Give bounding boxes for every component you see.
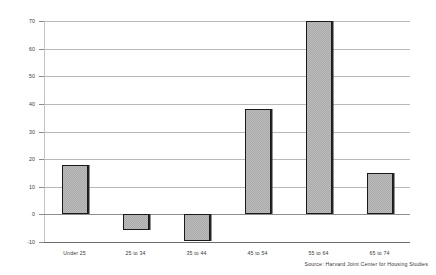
x-axis-tick-label: 45 to 54	[227, 250, 288, 257]
y-axis-tick-label: 20	[13, 156, 35, 162]
bar	[367, 173, 393, 214]
y-tick-mark	[39, 132, 44, 133]
y-tick-mark	[39, 49, 44, 50]
y-tick-mark	[39, 242, 44, 243]
x-axis-tick-label: 65 to 74	[349, 250, 410, 257]
y-tick-mark	[39, 21, 44, 22]
gridline	[44, 132, 410, 133]
y-axis-tick-label: -10	[13, 239, 35, 245]
bar	[62, 165, 88, 215]
gridline	[44, 214, 410, 215]
gridline	[44, 159, 410, 160]
bar	[245, 109, 271, 214]
y-axis-tick-label: 0	[13, 211, 35, 217]
gridline	[44, 21, 410, 22]
x-axis-tick-label: 35 to 44	[166, 250, 227, 257]
bar	[123, 214, 149, 229]
y-tick-mark	[39, 76, 44, 77]
source-note: Source: Harvard Joint Center for Housing…	[305, 260, 429, 268]
y-axis-tick-label: 30	[13, 129, 35, 135]
y-tick-mark	[39, 214, 44, 215]
x-axis-tick-label: 25 to 34	[105, 250, 166, 257]
bar-chart: 706050403020100-10 Under 2525 to 3435 to…	[0, 0, 436, 275]
gridline	[44, 242, 410, 243]
bar	[184, 214, 210, 240]
gridline	[44, 49, 410, 50]
bar	[306, 21, 332, 214]
y-tick-mark	[39, 159, 44, 160]
gridline	[44, 76, 410, 77]
y-axis-tick-label: 50	[13, 73, 35, 79]
x-axis-tick-label: 55 to 64	[288, 250, 349, 257]
gridline	[44, 187, 410, 188]
y-tick-mark	[39, 187, 44, 188]
plot-area	[44, 21, 410, 242]
y-tick-mark	[39, 104, 44, 105]
gridline	[44, 104, 410, 105]
x-axis-tick-label: Under 25	[44, 250, 105, 257]
y-axis-tick-label: 10	[13, 184, 35, 190]
y-axis-tick-label: 40	[13, 101, 35, 107]
y-axis-tick-label: 70	[13, 18, 35, 24]
y-axis-tick-label: 60	[13, 46, 35, 52]
